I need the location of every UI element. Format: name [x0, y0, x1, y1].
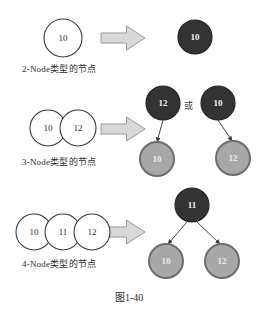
node-value: 12 — [88, 227, 97, 237]
node-value: 12 — [229, 153, 239, 163]
or-separator-label: 或 — [184, 99, 193, 112]
transform-arrow-two-node — [101, 26, 145, 50]
node-value: 10 — [44, 123, 54, 133]
tree-edge-three-node-0 — [157, 120, 163, 142]
node-value: 10 — [30, 227, 40, 237]
node-value: 12 — [218, 256, 228, 266]
tree-edge-three-node-1 — [218, 120, 232, 141]
tree-edge-four-node-1 — [197, 222, 220, 244]
node-value: 10 — [153, 154, 163, 164]
row-label-two-node: 2-Node类型的节点 — [22, 62, 96, 75]
tree-edge-four-node-0 — [168, 222, 187, 244]
node-value: 11 — [59, 227, 68, 237]
node-three-node-res-2: 10 — [201, 86, 235, 120]
node-value: 12 — [159, 98, 169, 108]
node-three-node-src-1: 12 — [60, 110, 96, 146]
node-two-node-src-0: 10 — [44, 19, 82, 57]
node-three-node-res-3: 12 — [216, 141, 250, 175]
node-three-node-res-0: 12 — [146, 86, 180, 120]
node-two-node-res-0: 10 — [178, 20, 212, 54]
node-four-node-src-2: 12 — [74, 214, 110, 250]
row-label-three-node: 3-Node类型的节点 — [22, 155, 96, 168]
node-value: 10 — [162, 256, 172, 266]
figure-1-40: 1010101212101012101112111012 2-Node类型的节点… — [0, 0, 266, 315]
node-value: 10 — [59, 33, 69, 43]
node-value: 10 — [214, 98, 224, 108]
node-three-node-res-1: 10 — [140, 142, 174, 176]
transform-arrow-three-node — [101, 117, 145, 141]
node-value: 12 — [74, 123, 83, 133]
node-value: 10 — [191, 32, 201, 42]
node-four-node-res-1: 10 — [149, 244, 183, 278]
row-label-four-node: 4-Node类型的节点 — [22, 257, 96, 270]
node-value: 11 — [188, 200, 197, 210]
node-four-node-res-2: 12 — [205, 244, 239, 278]
node-four-node-res-0: 11 — [175, 188, 209, 222]
figure-caption: 图1-40 — [115, 289, 143, 304]
